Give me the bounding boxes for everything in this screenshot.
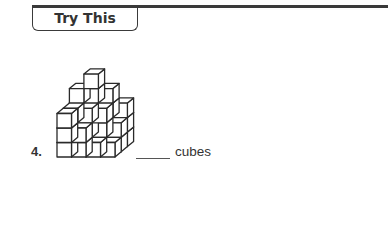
answer-line: cubes	[136, 144, 211, 159]
answer-blank[interactable]	[136, 146, 170, 159]
problem-number: 4.	[31, 144, 42, 159]
cube-face	[57, 128, 72, 143]
cube-face	[57, 143, 72, 158]
cube-face	[69, 89, 84, 104]
answer-unit: cubes	[175, 144, 211, 159]
cube-face	[84, 74, 99, 89]
cube-face	[57, 114, 72, 129]
